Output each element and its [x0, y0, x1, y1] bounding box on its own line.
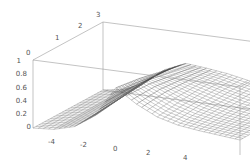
z-axis-ticks: 1 0.8 0.6 0.4 0.2 0 — [16, 57, 31, 131]
z-tick-label: 0.6 — [16, 84, 28, 92]
z-tick-label: 0.8 — [16, 70, 27, 78]
surface-mesh — [33, 63, 250, 140]
axis-box-front — [33, 49, 250, 155]
x-tick-label: -2 — [80, 141, 87, 149]
z-tick-label: 0.4 — [16, 97, 28, 105]
surface-plot: -4 -2 0 2 4 0 1 2 3 1 0.8 0.6 0.4 0.2 0 — [0, 0, 250, 168]
y-axis-ticks: 0 1 2 3 — [26, 11, 100, 57]
x-tick-label: 4 — [183, 154, 188, 162]
axis-box-back — [33, 22, 250, 117]
x-tick-label: 0 — [113, 145, 117, 153]
z-tick-label: 0.2 — [16, 110, 27, 118]
x-tick-label: -4 — [48, 138, 56, 146]
x-axis-ticks: -4 -2 0 2 4 — [48, 138, 188, 162]
z-tick-label: 0 — [27, 123, 31, 131]
y-tick-label: 2 — [78, 22, 82, 30]
y-tick-label: 0 — [26, 49, 30, 57]
x-tick-label: 2 — [146, 149, 150, 157]
z-tick-label: 1 — [17, 57, 21, 65]
y-tick-label: 3 — [96, 11, 100, 19]
y-tick-label: 1 — [55, 34, 59, 42]
